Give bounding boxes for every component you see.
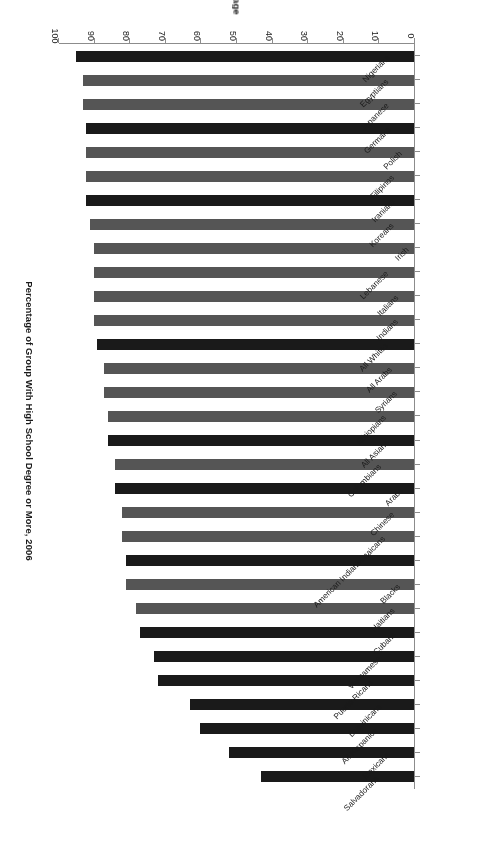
category-tick [415,464,420,465]
category-tick [415,367,420,368]
value-axis-title: Percentage [232,0,243,15]
bar [261,771,414,782]
category-tick [415,608,420,609]
category-tick [415,560,420,561]
category-tick [415,512,420,513]
plot-area: NigeriansEgyptiansJapaneseGermansPolishF… [59,44,415,789]
category-tick [415,271,420,272]
category-tick [415,127,420,128]
category-tick [415,584,420,585]
category-tick [415,247,420,248]
value-tick-label: 70 [157,31,167,41]
value-tick-label: 90 [86,31,96,41]
value-tick-label: 0 [406,33,416,38]
value-tick-label: 40 [264,31,274,41]
chart-title: Percentage of Group With High School Deg… [25,281,36,561]
category-tick [415,536,420,537]
category-tick [415,319,420,320]
value-tick-label: 20 [335,31,345,41]
category-tick [415,151,420,152]
category-tick [415,343,420,344]
category-tick [415,680,420,681]
bar [126,579,414,590]
category-tick [415,728,420,729]
category-tick [415,199,420,200]
value-tick [414,38,415,43]
bar [76,51,414,62]
value-axis-line [59,43,415,44]
bar [136,603,414,614]
category-tick [415,704,420,705]
category-axis-line [414,44,415,789]
value-tick-label: 60 [192,31,202,41]
category-tick [415,440,420,441]
category-tick [415,488,420,489]
category-tick [415,295,420,296]
bar [94,243,414,254]
value-tick-label: 80 [121,31,131,41]
category-tick [415,776,420,777]
category-tick [415,391,420,392]
bar [86,195,414,206]
bar [122,507,414,518]
category-tick [415,632,420,633]
bar [97,339,414,350]
category-tick [415,752,420,753]
bar-chart-figure: Percentage of Group With High School Deg… [0,0,501,841]
category-tick [415,223,420,224]
category-tick [415,55,420,56]
bar [86,171,414,182]
value-tick-label: 30 [299,31,309,41]
value-tick-label: 50 [228,31,238,41]
bar [90,219,414,230]
bar [94,267,414,278]
bar [115,483,414,494]
bar [108,411,414,422]
value-tick-label: 10 [370,31,380,41]
category-tick [415,103,420,104]
bar [94,315,414,326]
category-tick [415,79,420,80]
value-tick-label: 100 [50,28,60,43]
category-tick [415,416,420,417]
bar [200,723,414,734]
bar [158,675,414,686]
category-tick [415,656,420,657]
category-tick [415,175,420,176]
